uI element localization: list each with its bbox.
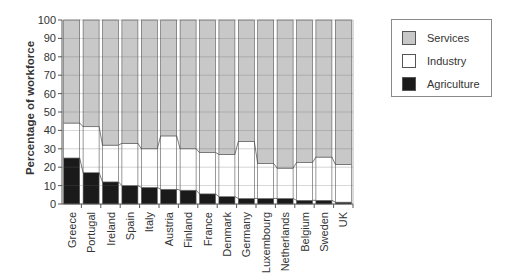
bar-services bbox=[335, 20, 351, 164]
bar-services bbox=[258, 20, 274, 164]
x-tick-label: Austria bbox=[163, 211, 175, 246]
bar-industry bbox=[335, 164, 351, 202]
bar-services bbox=[161, 20, 177, 136]
series-connector-line bbox=[99, 127, 102, 145]
x-tick-label: Portugal bbox=[85, 212, 97, 253]
series-connector-line bbox=[177, 189, 180, 190]
bar-services bbox=[103, 20, 119, 145]
bar-industry bbox=[219, 154, 235, 196]
bar-agriculture bbox=[200, 194, 216, 204]
bar-services bbox=[141, 20, 157, 149]
bar-services bbox=[83, 20, 99, 127]
y-tick-label: 20 bbox=[44, 161, 56, 173]
series-connector-line bbox=[80, 123, 83, 127]
y-tick-label: 0 bbox=[50, 198, 56, 210]
x-tick-label: Germany bbox=[240, 212, 252, 258]
x-tick-label: Ireland bbox=[105, 212, 117, 246]
series-connector-line bbox=[235, 197, 238, 199]
series-connector-line bbox=[138, 186, 141, 188]
series-connector-line bbox=[138, 143, 141, 149]
x-tick-label: Greece bbox=[66, 212, 78, 248]
series-connector-line bbox=[80, 158, 83, 173]
y-tick-label: 100 bbox=[38, 14, 56, 26]
legend-item-services: Services bbox=[402, 30, 469, 46]
bar-industry bbox=[83, 127, 99, 173]
legend-label-industry: Industry bbox=[427, 55, 466, 67]
y-tick-label: 80 bbox=[44, 51, 56, 63]
bar-industry bbox=[238, 141, 254, 198]
bar-agriculture bbox=[64, 158, 80, 204]
bar-agriculture bbox=[103, 182, 119, 204]
legend-swatch-agriculture bbox=[402, 77, 416, 91]
bar-industry bbox=[122, 143, 138, 185]
series-connector-line bbox=[196, 149, 199, 153]
bar-industry bbox=[103, 145, 119, 182]
bar-industry bbox=[64, 123, 80, 158]
bar-industry bbox=[200, 152, 216, 193]
bar-agriculture bbox=[277, 198, 293, 204]
legend-item-agriculture: Agriculture bbox=[402, 76, 480, 92]
x-tick-label: Finland bbox=[182, 212, 194, 248]
x-tick-label: Sweden bbox=[318, 212, 330, 252]
x-tick-label: Belgium bbox=[299, 212, 311, 252]
bar-services bbox=[200, 20, 216, 152]
y-tick-label: 70 bbox=[44, 69, 56, 81]
series-connector-line bbox=[216, 194, 219, 197]
y-tick-label: 30 bbox=[44, 143, 56, 155]
legend-swatch-industry bbox=[402, 54, 416, 68]
bar-services bbox=[297, 20, 313, 163]
legend: Services Industry Agriculture bbox=[391, 19, 492, 97]
series-connector-line bbox=[235, 141, 238, 154]
bar-industry bbox=[180, 149, 196, 190]
y-tick-label: 90 bbox=[44, 32, 56, 44]
bar-agriculture bbox=[238, 198, 254, 204]
bar-services bbox=[277, 20, 293, 168]
legend-item-industry: Industry bbox=[402, 53, 466, 69]
bar-industry bbox=[141, 149, 157, 188]
series-connector-line bbox=[99, 173, 102, 182]
bar-agriculture bbox=[180, 190, 196, 204]
series-connector-line bbox=[177, 136, 180, 149]
y-tick-label: 50 bbox=[44, 106, 56, 118]
bar-agriculture bbox=[141, 187, 157, 204]
y-axis-label: Percentage of workforce bbox=[24, 41, 36, 175]
series-connector-line bbox=[293, 198, 296, 200]
y-tick-label: 10 bbox=[44, 180, 56, 192]
x-tick-label: UK bbox=[337, 211, 349, 227]
x-tick-label: France bbox=[202, 212, 214, 246]
x-tick-label: Italy bbox=[143, 212, 155, 233]
y-tick-label: 40 bbox=[44, 124, 56, 136]
x-tick-label: Denmark bbox=[221, 212, 233, 257]
legend-swatch-services bbox=[402, 31, 416, 45]
series-connector-line bbox=[254, 141, 257, 163]
bar-agriculture bbox=[122, 186, 138, 204]
bar-services bbox=[64, 20, 80, 123]
bar-industry bbox=[277, 168, 293, 198]
series-connector-line bbox=[216, 152, 219, 154]
y-tick-label: 60 bbox=[44, 88, 56, 100]
series-connector-line bbox=[332, 157, 335, 164]
x-tick-label: Luxembourg bbox=[260, 212, 272, 273]
legend-label-services: Services bbox=[427, 32, 469, 44]
bar-agriculture bbox=[161, 189, 177, 204]
bar-agriculture bbox=[316, 200, 332, 204]
series-connector-line bbox=[313, 157, 316, 163]
series-connector-line bbox=[157, 136, 160, 149]
bar-services bbox=[180, 20, 196, 149]
series-connector-line bbox=[119, 182, 122, 186]
x-tick-label: Spain bbox=[124, 212, 136, 240]
bar-services bbox=[316, 20, 332, 157]
bar-industry bbox=[258, 164, 274, 199]
bar-industry bbox=[297, 163, 313, 201]
legend-label-agriculture: Agriculture bbox=[427, 78, 480, 90]
series-connector-line bbox=[119, 143, 122, 145]
bar-agriculture bbox=[258, 198, 274, 204]
series-connector-line bbox=[157, 187, 160, 189]
series-connector-line bbox=[196, 190, 199, 194]
bar-industry bbox=[316, 157, 332, 200]
bar-agriculture bbox=[219, 197, 235, 204]
x-tick-label: Netherlands bbox=[279, 212, 291, 272]
bar-industry bbox=[161, 136, 177, 189]
series-connector-line bbox=[332, 200, 335, 202]
bar-services bbox=[219, 20, 235, 154]
